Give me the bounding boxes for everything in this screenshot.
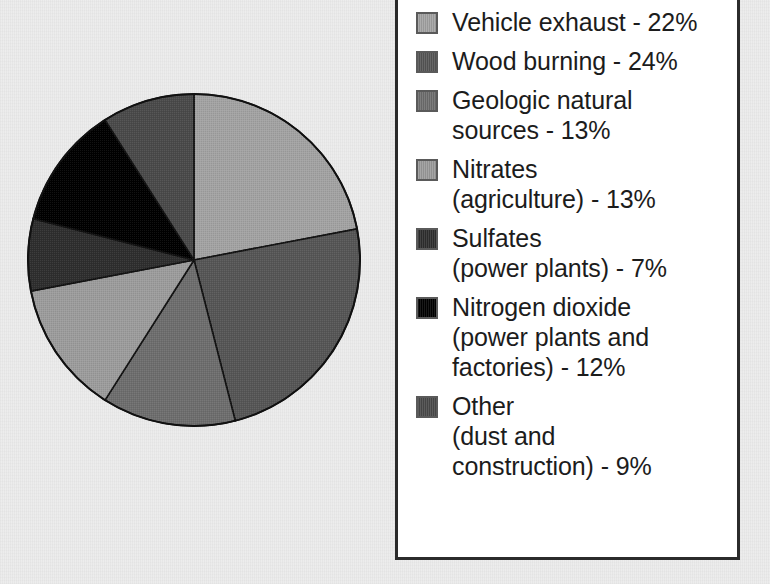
legend-item-label: Other (dust and construction) - 9%: [452, 391, 652, 481]
legend-item-label: Nitrates (agriculture) - 13%: [452, 154, 656, 214]
pie-texture-overlay: [28, 94, 360, 426]
legend-item-nitrates[interactable]: Nitrates (agriculture) - 13%: [398, 154, 737, 214]
legend-item-label: Nitrogen dioxide (power plants and facto…: [452, 292, 649, 382]
legend-item-label: Geologic natural sources - 13%: [452, 85, 632, 145]
legend-item-nitrogen-dioxide[interactable]: Nitrogen dioxide (power plants and facto…: [398, 292, 737, 382]
pie-chart: [24, 90, 364, 430]
legend-item-wood-burning[interactable]: Wood burning - 24%: [398, 46, 737, 76]
legend-swatch-icon: [416, 90, 438, 112]
legend: Vehicle exhaust - 22% Wood burning - 24%…: [395, 0, 740, 560]
legend-swatch-icon: [416, 159, 438, 181]
legend-swatch-icon: [416, 228, 438, 250]
legend-swatch-icon: [416, 297, 438, 319]
legend-swatch-icon: [416, 51, 438, 73]
legend-item-label: Sulfates (power plants) - 7%: [452, 223, 667, 283]
legend-item-label: Wood burning - 24%: [452, 46, 678, 76]
legend-swatch-icon: [416, 396, 438, 418]
pie-chart-area: [0, 0, 395, 584]
legend-item-label: Vehicle exhaust - 22%: [452, 7, 697, 37]
legend-swatch-icon: [416, 12, 438, 34]
legend-item-other[interactable]: Other (dust and construction) - 9%: [398, 391, 737, 481]
legend-item-sulfates[interactable]: Sulfates (power plants) - 7%: [398, 223, 737, 283]
legend-item-vehicle-exhaust[interactable]: Vehicle exhaust - 22%: [398, 7, 737, 37]
legend-item-geologic-natural-sources[interactable]: Geologic natural sources - 13%: [398, 85, 737, 145]
